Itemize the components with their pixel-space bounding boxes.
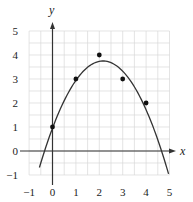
data-point xyxy=(74,77,79,82)
y-tick-label: 5 xyxy=(13,25,19,37)
data-point xyxy=(120,77,125,82)
x-tick-label: 1 xyxy=(73,186,79,198)
y-axis-label: y xyxy=(48,3,55,17)
x-tick-label: 5 xyxy=(167,186,173,198)
data-point xyxy=(50,125,55,130)
y-tick-label: 3 xyxy=(13,73,19,85)
data-point xyxy=(97,53,102,58)
data-point xyxy=(144,101,149,106)
y-axis-arrow-icon xyxy=(50,22,55,29)
x-tick-label: 3 xyxy=(120,186,126,198)
x-axis-arrow-icon xyxy=(169,149,176,154)
x-tick-label: 0 xyxy=(50,186,56,198)
chart: −1012345−1012345 x y xyxy=(0,0,193,202)
x-tick-label: 4 xyxy=(143,186,149,198)
y-tick-label: 2 xyxy=(13,97,19,109)
y-tick-label: −1 xyxy=(6,169,18,181)
x-axis-label: x xyxy=(179,144,186,158)
y-tick-label: 4 xyxy=(13,49,19,61)
fit-curve xyxy=(39,61,168,174)
x-tick-label: −1 xyxy=(23,186,35,198)
y-tick-label: 1 xyxy=(13,121,19,133)
x-tick-label: 2 xyxy=(97,186,103,198)
axes xyxy=(20,22,176,185)
y-tick-label: 0 xyxy=(13,145,19,157)
tick-labels: −1012345−1012345 xyxy=(6,25,172,198)
